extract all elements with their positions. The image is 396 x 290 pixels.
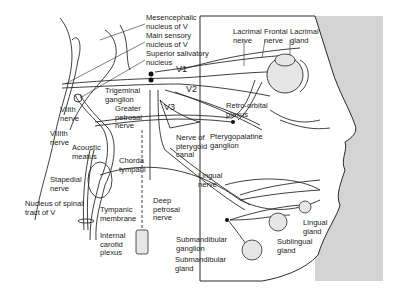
label-retro-orbital-plexus: Retro-orbital plexus — [226, 102, 268, 119]
label-lacrimal-nerve: Lacrimal nerve — [233, 28, 262, 45]
label-submandibular-gland: Submandibular gland — [175, 256, 226, 273]
label-frontal-nerve: Frontal nerve — [264, 28, 288, 45]
label-nucleus-spinal-tract: Nucleus of spinal tract of V — [25, 200, 83, 217]
label-acoustic-meatus: Acoustic meatus — [72, 144, 101, 161]
internal-carotid-plexus-shape — [136, 230, 148, 254]
label-lingual-nerve: Lingual nerve — [198, 172, 223, 189]
label-nerve-of-pterygoid-canal: Nerve of pterygoid canal — [176, 134, 207, 160]
label-viith-nerve: VIIth nerve — [60, 106, 79, 123]
label-v1: V1 — [176, 64, 187, 74]
label-lingual-gland: Lingual gland — [303, 219, 328, 236]
label-main-sensory-nucleus: Main sensory nucleus of V — [146, 32, 191, 49]
label-tympanic-membrane: Tympanic membrane — [100, 206, 136, 223]
label-deep-petrosal-nerve: Deep petrosal nerve — [153, 197, 180, 223]
label-viiith-nerve: VIIIth nerve — [50, 130, 69, 147]
submandibular-gland-shape — [242, 240, 262, 260]
label-stapedial-nerve: Stapedial nerve — [50, 176, 82, 193]
sublingual-gland-shape — [269, 213, 287, 231]
label-mesencephalic-nucleus: Mesencephalic nucleus of V — [146, 14, 197, 31]
label-v2: V2 — [186, 84, 197, 94]
label-greater-petrosal-nerve: Greater petrosal nerve — [115, 105, 142, 131]
label-submandibular-ganglion: Submandibular ganglion — [176, 236, 227, 253]
label-sublingual-gland: Sublingual gland — [277, 238, 312, 255]
label-pterygopalatine-ganglion: Pterygopalatine ganglion — [210, 133, 263, 150]
diagram-canvas: Mesencephalic nucleus of V Main sensory … — [0, 0, 396, 290]
lacrimal-gland-shape — [275, 54, 295, 66]
label-chorda-tympani: Chorda tympani — [119, 157, 146, 174]
label-trigeminal-ganglion: Trigeminal ganglion — [105, 87, 140, 104]
label-v3: V3 — [164, 102, 175, 112]
label-internal-carotid-plexus: Internal carotid plexus — [100, 232, 125, 258]
lingual-gland-shape — [299, 201, 311, 213]
label-lacrimal-gland: Lacrimal gland — [290, 28, 319, 45]
